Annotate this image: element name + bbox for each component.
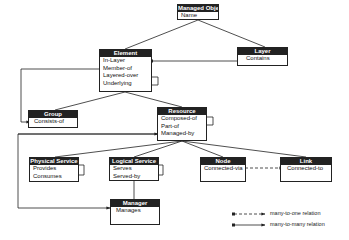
attribute-provides: Provides	[30, 165, 78, 173]
entity-physical-service: Physical Service Provides Consumes	[29, 157, 79, 182]
entity-title: Logical Service	[110, 158, 158, 165]
attribute-consumes: Consumes	[30, 173, 78, 181]
entity-logical-service: Logical Service Serves Served-by	[109, 157, 159, 181]
entity-node: Node Connected-via	[200, 157, 246, 182]
attribute-member-of: Member-of	[100, 65, 151, 73]
attribute-managed-by: Managed-by	[158, 130, 206, 138]
attribute-manages: Manages	[111, 207, 159, 215]
attribute-name: Name	[178, 12, 218, 20]
entity-element: Element In-Layer Member-of Layered-over …	[99, 49, 152, 92]
attribute-contains: Contains	[238, 55, 287, 63]
attribute-in-layer: In-Layer	[100, 57, 151, 65]
attribute-layered-over: Layered-over	[100, 72, 151, 80]
entity-title: Group	[29, 111, 77, 118]
legend-many-to-one: many-to-one relation	[270, 210, 320, 216]
entity-layer: Layer Contains	[237, 47, 288, 66]
entity-group: Group Consists-of	[28, 110, 78, 128]
entity-manager: Manager Manages	[110, 199, 160, 225]
entity-title: Manager	[111, 200, 159, 207]
diagram-canvas: Managed Object Name Element In-Layer Mem…	[0, 0, 349, 240]
entity-title: Element	[100, 50, 151, 57]
entity-resource: Resource Composed-of Part-of Managed-by	[157, 107, 207, 141]
attribute-composed-of: Composed-of	[158, 115, 206, 123]
entity-link: Link Connected-to	[280, 157, 332, 182]
entity-title: Layer	[238, 48, 287, 55]
entity-title: Node	[201, 158, 245, 165]
attribute-serves: Serves	[110, 165, 158, 173]
attribute-consists-of: Consists-of	[29, 118, 77, 126]
entity-title: Physical Service	[30, 158, 78, 165]
attribute-part-of: Part-of	[158, 123, 206, 131]
legend-many-to-many: many-to-many relation	[270, 221, 325, 227]
entity-managed-object: Managed Object Name	[177, 4, 219, 20]
attribute-connected-to: Connected-to	[281, 165, 331, 173]
entity-title: Resource	[158, 108, 206, 115]
entity-title: Link	[281, 158, 331, 165]
entity-title: Managed Object	[178, 5, 218, 12]
attribute-connected-via: Connected-via	[201, 165, 245, 173]
attribute-served-by: Served-by	[110, 173, 158, 181]
attribute-underlying: Underlying	[100, 80, 151, 88]
